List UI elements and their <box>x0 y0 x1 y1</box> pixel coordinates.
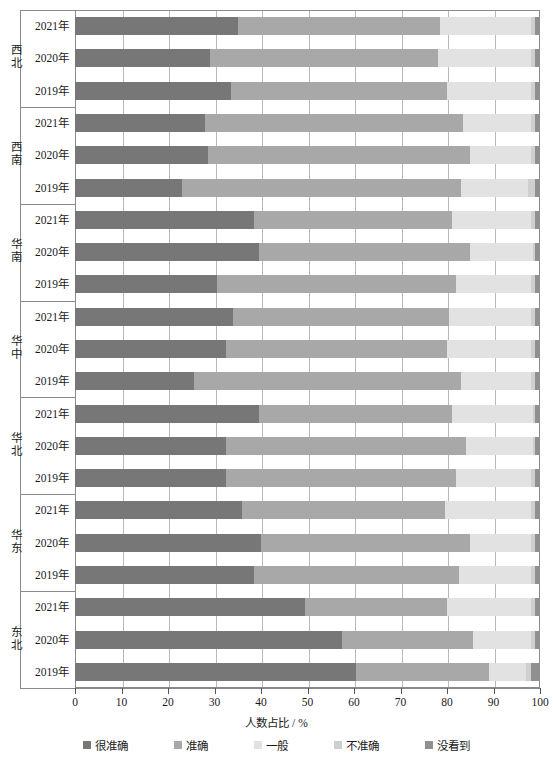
bar-segment-准确 <box>261 534 470 552</box>
year-label: 2021年 <box>35 214 69 226</box>
bar-segment-没看到 <box>535 469 540 487</box>
bar-segment-没看到 <box>535 49 540 67</box>
year-label: 2019年 <box>35 375 69 387</box>
legend-swatch-icon <box>174 741 182 749</box>
bar-row <box>75 598 540 616</box>
legend-item-不准确[interactable]: 不准确 <box>334 737 379 753</box>
bar-row <box>75 243 540 261</box>
year-label: 2020年 <box>35 537 69 549</box>
region-label-西北: 西北 <box>10 44 24 70</box>
group-separator <box>20 204 75 205</box>
year-label: 2021年 <box>35 311 69 323</box>
x-tick-label: 50 <box>302 696 314 709</box>
bar-segment-没看到 <box>535 179 540 197</box>
bar-segment-准确 <box>208 146 471 164</box>
legend-item-准确[interactable]: 准确 <box>174 737 208 753</box>
x-tick <box>494 688 495 694</box>
bar-segment-没看到 <box>535 372 540 390</box>
bar-segment-准确 <box>305 598 447 616</box>
bar-segment-很准确 <box>75 179 182 197</box>
bar-segment-一般 <box>440 17 531 35</box>
bar-segment-准确 <box>210 49 438 67</box>
bar-row <box>75 566 540 584</box>
bar-segment-没看到 <box>535 631 540 649</box>
x-tick <box>540 688 541 694</box>
x-tick <box>168 688 169 694</box>
bar-segment-一般 <box>449 308 530 326</box>
bar-segment-准确 <box>205 114 463 132</box>
legend-item-没看到[interactable]: 没看到 <box>425 737 470 753</box>
bar-segment-没看到 <box>535 534 540 552</box>
bar-segment-很准确 <box>75 469 226 487</box>
bar-row <box>75 275 540 293</box>
year-label: 2021年 <box>35 117 69 129</box>
region-label-华南: 华南 <box>10 238 24 264</box>
bar-row <box>75 308 540 326</box>
legend-item-很准确[interactable]: 很准确 <box>83 737 128 753</box>
group-separator <box>20 10 75 11</box>
year-label: 2019年 <box>35 85 69 97</box>
bar-segment-很准确 <box>75 631 342 649</box>
bar-segment-很准确 <box>75 146 208 164</box>
legend-item-一般[interactable]: 一般 <box>254 737 288 753</box>
bar-segment-一般 <box>470 146 530 164</box>
year-label: 2020年 <box>35 52 69 64</box>
bar-segment-准确 <box>254 566 459 584</box>
x-tick-label: 10 <box>116 696 128 709</box>
group-separator <box>20 494 75 495</box>
bar-segment-准确 <box>238 17 440 35</box>
year-label: 2020年 <box>35 343 69 355</box>
bar-segment-准确 <box>182 179 461 197</box>
region-label-东北: 东北 <box>10 626 24 652</box>
bar-segment-很准确 <box>75 308 233 326</box>
x-tick <box>308 688 309 694</box>
bar-row <box>75 405 540 423</box>
bar-segment-准确 <box>194 372 461 390</box>
bar-segment-没看到 <box>535 308 540 326</box>
bar-segment-一般 <box>489 663 526 681</box>
bar-segment-一般 <box>445 501 531 519</box>
bar-row <box>75 146 540 164</box>
bar-segment-准确 <box>231 82 447 100</box>
bar-segment-一般 <box>456 275 530 293</box>
bar-row <box>75 501 540 519</box>
year-label: 2021年 <box>35 504 69 516</box>
bar-segment-没看到 <box>535 405 540 423</box>
bar-segment-没看到 <box>535 114 540 132</box>
bar-segment-一般 <box>452 405 533 423</box>
bar-segment-没看到 <box>535 82 540 100</box>
bar-segment-不准确 <box>528 179 535 197</box>
bar-segment-准确 <box>233 308 449 326</box>
bar-row <box>75 340 540 358</box>
bar-row <box>75 437 540 455</box>
year-label: 2019年 <box>35 278 69 290</box>
bar-segment-没看到 <box>535 437 540 455</box>
year-label: 2020年 <box>35 634 69 646</box>
bar-segment-准确 <box>254 211 452 229</box>
chart-legend: 很准确准确一般不准确没看到 <box>0 737 553 753</box>
legend-swatch-icon <box>334 741 342 749</box>
group-separator <box>20 107 75 108</box>
stacked-bar-chart: 西北2021年2020年2019年西南2021年2020年2019年华南2021… <box>0 0 553 761</box>
bar-segment-很准确 <box>75 275 217 293</box>
year-label: 2021年 <box>35 601 69 613</box>
year-label: 2019年 <box>35 666 69 678</box>
bar-segment-很准确 <box>75 49 210 67</box>
x-tick-label: 80 <box>441 696 453 709</box>
bar-segment-一般 <box>466 437 533 455</box>
bar-segment-一般 <box>438 49 531 67</box>
bar-rows <box>75 10 540 688</box>
bar-row <box>75 631 540 649</box>
x-tick-label: 20 <box>162 696 174 709</box>
bar-row <box>75 114 540 132</box>
bar-segment-很准确 <box>75 340 226 358</box>
bar-segment-一般 <box>447 82 531 100</box>
legend-label: 不准确 <box>346 737 379 753</box>
bar-segment-一般 <box>463 114 530 132</box>
x-tick <box>401 688 402 694</box>
x-tick-label: 60 <box>348 696 360 709</box>
bar-segment-一般 <box>456 469 530 487</box>
bar-segment-很准确 <box>75 437 226 455</box>
group-separator <box>20 397 75 398</box>
bar-segment-准确 <box>356 663 489 681</box>
